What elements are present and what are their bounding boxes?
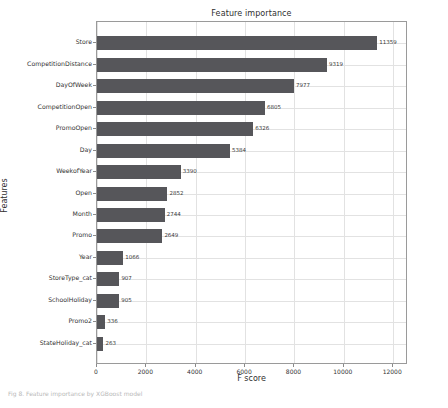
bar-value-label: 907 xyxy=(121,274,132,282)
x-tick-mark xyxy=(392,364,393,367)
figure-caption: Fig 8. Feature importance by XGBoost mod… xyxy=(8,390,142,397)
bar[interactable] xyxy=(97,229,162,243)
plot-area: 1135993197977680563265384339028522744264… xyxy=(96,21,407,364)
bar[interactable] xyxy=(97,144,230,158)
y-tick-label: Month xyxy=(0,210,92,218)
y-tick-mark xyxy=(93,85,96,86)
bar[interactable] xyxy=(97,36,377,50)
y-tick-label: Open xyxy=(0,189,92,197)
bar-value-label: 6326 xyxy=(255,124,269,132)
bar[interactable] xyxy=(97,294,119,308)
y-tick-mark xyxy=(93,128,96,129)
y-tick-label: CompetitionDistance xyxy=(0,60,92,68)
bar[interactable] xyxy=(97,101,265,115)
y-tick-label: DayOfWeek xyxy=(0,81,92,89)
y-tick-mark xyxy=(93,343,96,344)
bar[interactable] xyxy=(97,251,123,265)
gridline-horizontal xyxy=(97,279,406,280)
x-tick-mark xyxy=(244,364,245,367)
y-tick-label: WeekofYear xyxy=(0,167,92,175)
y-tick-label: Promo2 xyxy=(0,317,92,325)
bar-value-label: 2744 xyxy=(167,210,181,218)
bar-value-label: 2649 xyxy=(164,231,178,239)
bar-value-label: 336 xyxy=(107,317,118,325)
y-tick-label: StateHoliday_cat xyxy=(0,339,92,347)
gridline-vertical xyxy=(294,22,295,363)
bar[interactable] xyxy=(97,272,119,286)
y-tick-label: PromoOpen xyxy=(0,124,92,132)
bar[interactable] xyxy=(97,165,181,179)
bar[interactable] xyxy=(97,208,165,222)
y-tick-mark xyxy=(93,193,96,194)
gridline-horizontal xyxy=(97,344,406,345)
bar-value-label: 2852 xyxy=(169,189,183,197)
bar-value-label: 5384 xyxy=(232,146,246,154)
y-tick-label: CompetitionOpen xyxy=(0,103,92,111)
y-tick-mark xyxy=(93,64,96,65)
bar[interactable] xyxy=(97,187,167,201)
y-tick-mark xyxy=(93,171,96,172)
bar[interactable] xyxy=(97,122,253,136)
y-tick-mark xyxy=(93,321,96,322)
bar-value-label: 905 xyxy=(121,296,132,304)
feature-importance-chart-figure: Feature importance Features 113599319797… xyxy=(0,0,448,384)
bar[interactable] xyxy=(97,315,105,329)
x-tick-mark xyxy=(293,364,294,367)
y-tick-mark xyxy=(93,150,96,151)
y-tick-mark xyxy=(93,235,96,236)
y-tick-mark xyxy=(93,42,96,43)
bar-value-label: 1066 xyxy=(125,253,139,261)
y-tick-label: Year xyxy=(0,253,92,261)
chart-title: Feature importance xyxy=(96,9,407,18)
gridline-horizontal xyxy=(97,301,406,302)
y-tick-label: Day xyxy=(0,146,92,154)
y-tick-label: SchoolHoliday xyxy=(0,296,92,304)
bar[interactable] xyxy=(97,79,294,93)
gridline-vertical xyxy=(196,22,197,363)
bar-value-label: 9319 xyxy=(329,60,343,68)
y-tick-mark xyxy=(93,300,96,301)
gridline-vertical xyxy=(245,22,246,363)
bar-value-label: 11359 xyxy=(379,38,397,46)
y-tick-mark xyxy=(93,278,96,279)
y-tick-label: StoreType_cat xyxy=(0,274,92,282)
y-tick-mark xyxy=(93,257,96,258)
y-tick-label: Store xyxy=(0,38,92,46)
bar-value-label: 3390 xyxy=(183,167,197,175)
y-tick-mark xyxy=(93,214,96,215)
bar[interactable] xyxy=(97,337,103,351)
bar-value-label: 7977 xyxy=(296,81,310,89)
y-tick-mark xyxy=(93,107,96,108)
y-tick-label: Promo xyxy=(0,231,92,239)
bar-value-label: 6805 xyxy=(267,103,281,111)
x-tick-mark xyxy=(96,364,97,367)
gridline-horizontal xyxy=(97,258,406,259)
x-tick-mark xyxy=(145,364,146,367)
gridline-vertical xyxy=(393,22,394,363)
x-axis-label: F score xyxy=(96,374,407,383)
gridline-vertical xyxy=(344,22,345,363)
gridline-horizontal xyxy=(97,322,406,323)
x-tick-mark xyxy=(195,364,196,367)
bar-value-label: 263 xyxy=(105,339,116,347)
bar[interactable] xyxy=(97,58,327,72)
x-tick-mark xyxy=(343,364,344,367)
